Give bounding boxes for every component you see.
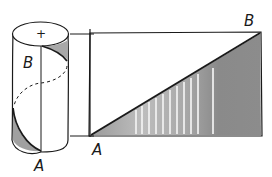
diagram-canvas: + B A: [0, 0, 272, 177]
unrolled-surface: A B: [89, 12, 262, 159]
cylinder-label-b: B: [23, 54, 33, 72]
cylinder-left-side: [12, 34, 13, 140]
unrolled-label-b: B: [244, 12, 254, 30]
helix-unrolling-diagram: + B A: [0, 0, 272, 177]
unrolled-label-a: A: [91, 141, 102, 159]
cylinder: + B A: [12, 22, 69, 175]
center-mark: +: [36, 27, 46, 41]
helix-bottom-shade: [13, 108, 41, 151]
cylinder-label-a: A: [33, 157, 44, 175]
